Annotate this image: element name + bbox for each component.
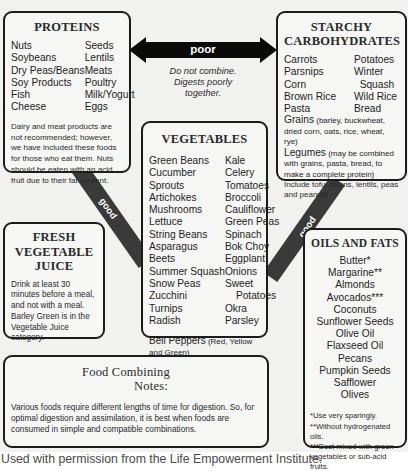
list-item: Zucchini	[149, 290, 225, 302]
list-item: Sunflower Seeds	[310, 316, 400, 328]
list-item: Soybeans	[11, 52, 85, 64]
starchy-grains: Grains (barley, buckwheat, dried corn, o…	[284, 115, 399, 147]
list-item: Almonds	[310, 279, 400, 291]
list-item: Mushrooms	[149, 204, 225, 216]
notes-title: Food Combining Notes:	[11, 365, 261, 393]
list-item: Broccoli	[225, 192, 279, 204]
starchy-include-note: Include tofu, beans, lentils, peas and p…	[284, 180, 399, 201]
list-item: Margarine**	[310, 267, 400, 279]
juice-note: Drink at least 30 minutes before a meal,…	[11, 280, 97, 345]
list-item: Potatoes	[225, 290, 279, 302]
list-item: Sprouts	[149, 180, 225, 192]
list-item: Celery	[225, 167, 279, 179]
proteins-col-2: SeedsLentilsMeatsPoultryMilk/YogurtEggs	[85, 40, 135, 114]
list-item: Winter	[354, 66, 399, 78]
vegetables-box: VEGETABLES Green BeansCucumberSproutsArt…	[141, 121, 268, 338]
list-item: Beets	[149, 253, 225, 265]
list-item: Butter*	[310, 255, 400, 267]
list-item: Wild Rice	[354, 91, 399, 103]
list-item: Bok Choy	[225, 241, 279, 253]
starchy-title: STARCHY CARBOHYDRATES	[284, 20, 399, 48]
list-item: Brown Rice	[284, 91, 354, 103]
list-item: Sweet	[225, 278, 279, 290]
proteins-box: PROTEINS NutsSoybeansDry Peas/BeansSoy P…	[3, 11, 131, 173]
list-item: Asparagus	[149, 241, 225, 253]
list-item: Olive Oil	[310, 328, 400, 340]
list-item: Lentils	[85, 52, 135, 64]
starchy-col-1: CarrotsParsnipsCornBrown RicePasta	[284, 54, 354, 115]
juice-title: FRESH VEGETABLE JUICE	[11, 230, 97, 274]
vegetables-title: VEGETABLES	[149, 132, 260, 147]
list-item: Okra	[225, 303, 279, 315]
proteins-list: NutsSoybeansDry Peas/BeansSoy ProductsFi…	[11, 40, 123, 114]
oils-footnotes: *Use very sparingly. **Without hydrogena…	[310, 411, 400, 471]
list-item: Pecans	[310, 353, 400, 365]
poor-arrow: poor	[129, 37, 277, 63]
list-item: Milk/Yogurt	[85, 89, 135, 101]
list-item: Cauliflower	[225, 204, 279, 216]
diagram-canvas: good good poor Do not combine. Digests p…	[0, 0, 408, 452]
list-item: Carrots	[284, 54, 354, 66]
list-item: String Beans	[149, 229, 225, 241]
oils-box: OILS AND FATS Butter*Margarine**AlmondsA…	[303, 228, 407, 448]
list-item: Soy Products	[11, 77, 85, 89]
proteins-note: Dairy and meat products are not recommen…	[11, 122, 123, 187]
list-item: Fish	[11, 89, 85, 101]
footer-credit: Used with permission from the Life Empow…	[1, 452, 322, 466]
list-item: Coconuts	[310, 304, 400, 316]
list-item: Cucumber	[149, 167, 225, 179]
list-item: Onions	[225, 266, 279, 278]
list-item: Lettuce	[149, 216, 225, 228]
list-item: Parsnips	[284, 66, 354, 78]
notes-body: Various foods require different lengths …	[11, 402, 261, 435]
list-item: Pumpkin Seeds	[310, 365, 400, 377]
good-label-left: good	[97, 196, 119, 221]
list-item: Turnips	[149, 303, 225, 315]
list-item: Squash	[354, 79, 399, 91]
list-item: Nuts	[11, 40, 85, 52]
poor-caption: Do not combine. Digests poorly together.	[140, 66, 266, 99]
list-item: Radish	[149, 315, 225, 327]
list-item: Tomatoes	[225, 180, 279, 192]
list-item: Artichokes	[149, 192, 225, 204]
list-item: Green Beans	[149, 155, 225, 167]
list-item: Spinach	[225, 229, 279, 241]
vegetables-col-1: Green BeansCucumberSproutsArtichokesMush…	[149, 155, 225, 327]
list-item: Cheese	[11, 101, 85, 113]
vegetables-list: Green BeansCucumberSproutsArtichokesMush…	[149, 155, 260, 327]
list-item: Poultry	[85, 77, 135, 89]
starchy-col-2: PotatoesWinter SquashWild RiceBread	[354, 54, 399, 115]
list-item: Olives	[310, 389, 400, 401]
list-item: Summer Squash	[149, 266, 225, 278]
list-item: Green Peas	[225, 216, 279, 228]
starchy-legumes: Legumes (may be combined with grains, pa…	[284, 148, 399, 180]
list-item: Corn	[284, 79, 354, 91]
juice-box: FRESH VEGETABLE JUICE Drink at least 30 …	[3, 222, 105, 339]
list-item: Potatoes	[354, 54, 399, 66]
oils-list: Butter*Margarine**AlmondsAvocados***Coco…	[310, 255, 400, 401]
list-item: Meats	[85, 65, 135, 77]
list-item: Flaxseed Oil	[310, 340, 400, 352]
proteins-title: PROTEINS	[11, 20, 123, 35]
list-item: Eggplant	[225, 253, 279, 265]
list-item: Bread	[354, 103, 399, 115]
list-item: Kale	[225, 155, 279, 167]
list-item: Avocados***	[310, 292, 400, 304]
list-item: Dry Peas/Beans	[11, 65, 85, 77]
starchy-list: CarrotsParsnipsCornBrown RicePasta Potat…	[284, 54, 399, 115]
list-item: Safflower	[310, 377, 400, 389]
list-item: Parsley	[225, 315, 279, 327]
list-item: Snow Peas	[149, 278, 225, 290]
vegetables-col-2: KaleCeleryTomatoesBroccoliCauliflowerGre…	[225, 155, 279, 327]
proteins-col-1: NutsSoybeansDry Peas/BeansSoy ProductsFi…	[11, 40, 85, 114]
oils-title: OILS AND FATS	[310, 237, 400, 249]
list-item: Seeds	[85, 40, 135, 52]
starchy-box: STARCHY CARBOHYDRATES CarrotsParsnipsCor…	[276, 11, 407, 181]
poor-label: poor	[129, 42, 277, 57]
notes-box: Food Combining Notes: Various foods requ…	[3, 355, 269, 448]
list-item: Eggs	[85, 101, 135, 113]
